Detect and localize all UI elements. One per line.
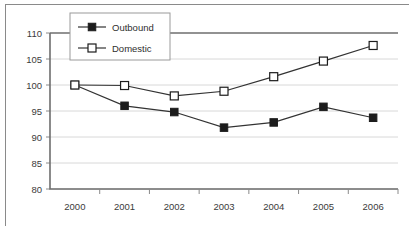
line-chart: 8085909510010511020002001200220032004200… — [6, 5, 410, 227]
x-axis-label-2003: 2003 — [213, 201, 234, 212]
datapoint-outbound-2002 — [171, 108, 179, 116]
x-axis-label-2006: 2006 — [363, 201, 384, 212]
datapoint-outbound-2003 — [220, 124, 228, 132]
datapoint-outbound-2001 — [121, 102, 129, 110]
x-axis-label-2000: 2000 — [64, 201, 85, 212]
datapoint-outbound-2005 — [320, 103, 328, 111]
chart-outer-frame: 8085909510010511020002001200220032004200… — [5, 4, 409, 226]
legend-marker-outbound — [88, 23, 96, 31]
x-axis-label-2002: 2002 — [164, 201, 185, 212]
y-axis-label-105: 105 — [26, 54, 42, 65]
datapoint-domestic-2000 — [71, 81, 79, 89]
chart-background — [6, 5, 410, 227]
datapoint-domestic-2001 — [121, 82, 129, 90]
legend-label-outbound: Outbound — [112, 22, 154, 33]
datapoint-domestic-2006 — [369, 41, 377, 49]
x-axis-label-2001: 2001 — [114, 201, 135, 212]
datapoint-domestic-2002 — [170, 92, 178, 100]
y-axis-label-80: 80 — [31, 184, 42, 195]
datapoint-domestic-2005 — [319, 57, 327, 65]
legend-marker-domestic — [88, 44, 96, 52]
y-axis-label-110: 110 — [27, 28, 42, 39]
y-axis-label-95: 95 — [31, 106, 42, 117]
legend-label-domestic: Domestic — [112, 43, 152, 54]
datapoint-domestic-2003 — [220, 87, 228, 95]
x-axis-label-2005: 2005 — [313, 201, 334, 212]
datapoint-domestic-2004 — [270, 73, 278, 81]
datapoint-outbound-2006 — [369, 114, 377, 122]
datapoint-outbound-2004 — [270, 119, 278, 127]
y-axis-label-100: 100 — [26, 80, 42, 91]
y-axis-label-85: 85 — [31, 158, 42, 169]
x-axis-label-2004: 2004 — [263, 201, 284, 212]
y-axis-label-90: 90 — [31, 132, 42, 143]
chart-plot-area: 8085909510010511020002001200220032004200… — [6, 5, 410, 227]
